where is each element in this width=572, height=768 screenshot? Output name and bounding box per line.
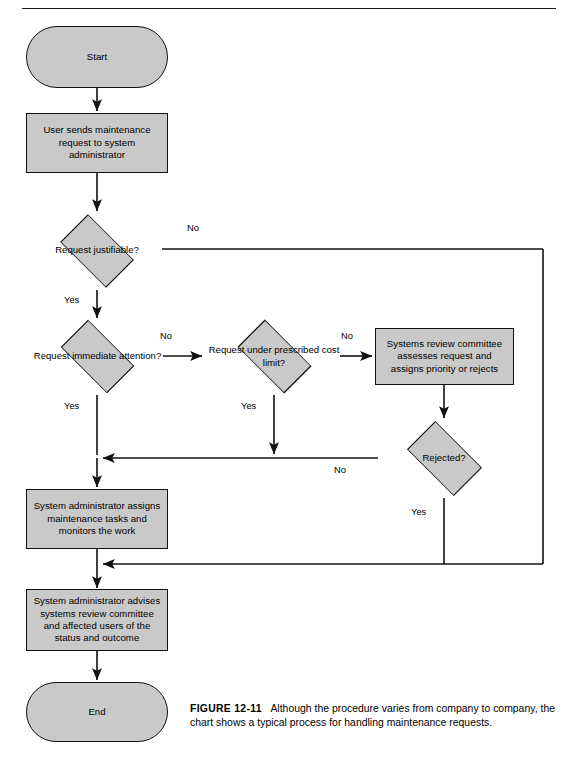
- node-start[interactable]: Start: [26, 26, 168, 88]
- node-systems-review-committee-label: Systems review committee assesses reques…: [376, 338, 513, 375]
- edge-label-rejected-yes: Yes: [411, 506, 426, 517]
- edge-label-cost-yes: Yes: [241, 400, 256, 411]
- figure-caption-label: FIGURE 12-11: [190, 703, 262, 714]
- figure-caption: FIGURE 12-11 Although the procedure vari…: [190, 702, 558, 730]
- node-request-justifiable[interactable]: Request justifiable?: [32, 211, 162, 290]
- node-end-label: End: [82, 706, 111, 718]
- node-systems-review-committee[interactable]: Systems review committee assesses reques…: [375, 328, 514, 385]
- node-rejected[interactable]: Rejected?: [378, 418, 510, 498]
- node-admin-assigns-tasks[interactable]: System administrator assigns maintenance…: [26, 489, 168, 549]
- edge-label-rejected-no: No: [334, 464, 346, 475]
- node-request-under-cost-limit-label: Request under prescribed cost limit?: [208, 318, 340, 395]
- node-user-sends-request[interactable]: User sends maintenance request to system…: [26, 113, 168, 173]
- node-rejected-label: Rejected?: [378, 418, 510, 498]
- node-start-label: Start: [81, 51, 114, 63]
- page-header-rule: [22, 8, 556, 9]
- node-request-under-cost-limit[interactable]: Request under prescribed cost limit?: [208, 318, 340, 395]
- node-request-immediate-attention-label: Request immediate attention?: [32, 318, 163, 395]
- node-request-justifiable-label: Request justifiable?: [32, 211, 162, 290]
- edge-label-cost-no: No: [341, 330, 353, 341]
- node-admin-advises[interactable]: System administrator advises systems rev…: [26, 589, 168, 651]
- edge-label-justifiable-no: No: [187, 222, 199, 233]
- figure-page: Start User sends maintenance request to …: [0, 0, 572, 768]
- edge-label-immediate-yes: Yes: [64, 400, 79, 411]
- node-end[interactable]: End: [26, 682, 168, 742]
- node-request-immediate-attention[interactable]: Request immediate attention?: [32, 318, 163, 395]
- node-admin-assigns-tasks-label: System administrator assigns maintenance…: [27, 500, 167, 537]
- edge-label-justifiable-yes: Yes: [64, 294, 79, 305]
- node-user-sends-request-label: User sends maintenance request to system…: [27, 124, 167, 161]
- node-admin-advises-label: System administrator advises systems rev…: [27, 595, 167, 645]
